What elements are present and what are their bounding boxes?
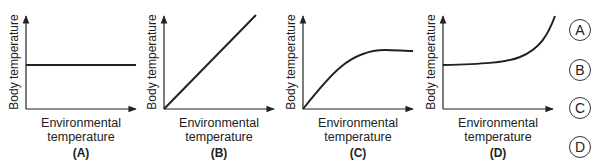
choice-a[interactable]: A xyxy=(569,19,591,41)
y-axis-label: Body temperature xyxy=(7,14,21,110)
x-axis-label-line2: temperature xyxy=(185,130,252,144)
x-axis-label-line2: temperature xyxy=(464,130,531,144)
panel-label-a: (A) xyxy=(73,146,90,160)
x-axis-label-line1: Environmental xyxy=(458,116,538,130)
y-axis-label: Body temperature xyxy=(145,14,159,110)
graph-d: Body temperature Environmental temperatu… xyxy=(424,14,555,160)
graph-c: Body temperature Environmental temperatu… xyxy=(284,14,413,160)
y-axis-label: Body temperature xyxy=(284,14,298,110)
x-axis-label-line2: temperature xyxy=(47,130,114,144)
choice-b[interactable]: B xyxy=(569,59,591,81)
x-axis-label-line1: Environmental xyxy=(179,116,259,130)
panel-label-c: (C) xyxy=(350,146,367,160)
x-axis-label-line1: Environmental xyxy=(41,116,121,130)
curve-saturating xyxy=(303,50,413,109)
graph-b: Body temperature Environmental temperatu… xyxy=(145,14,274,160)
choice-d[interactable]: D xyxy=(569,136,591,158)
choice-c[interactable]: C xyxy=(569,97,591,119)
x-axis-label-line2: temperature xyxy=(324,130,391,144)
panel-label-d: (D) xyxy=(490,146,507,160)
graphs-figure: Body temperature Environmental temperatu… xyxy=(0,0,604,165)
y-axis-label: Body temperature xyxy=(424,14,438,110)
curve-linear xyxy=(164,15,256,109)
panel-label-b: (B) xyxy=(211,146,228,160)
graph-a: Body temperature Environmental temperatu… xyxy=(7,14,136,160)
curve-exponential xyxy=(443,16,555,65)
x-axis-label-line1: Environmental xyxy=(318,116,398,130)
